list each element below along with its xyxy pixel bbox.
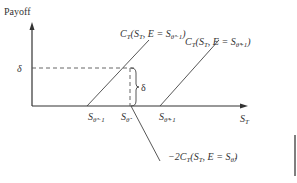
strike-label-upper: Sθ̂+1 — [159, 111, 176, 124]
y-axis-label: Payoff — [4, 6, 31, 17]
long-call-upper-strike-line — [160, 40, 219, 106]
short-calls-middle-strike-label: −2CT(ST, E = Sθ̂) — [168, 151, 238, 164]
butterfly-spread-payoff-diagram: Payoff ST δ δ CT(ST, E = Sθ̂−1) CT(ST, E… — [0, 0, 297, 183]
x-axis-label: ST — [240, 113, 250, 126]
long-call-upper-strike-label: CT(ST, E = Sθ̂+1) — [185, 36, 251, 49]
long-call-lower-strike-line — [87, 40, 149, 106]
short-calls-middle-strike-line — [131, 106, 160, 161]
x-axis — [32, 104, 248, 109]
delta-axis-label: δ — [17, 63, 22, 74]
x-axis-arrow-icon — [240, 104, 248, 109]
strike-label-lower: Sθ̂−1 — [88, 111, 105, 124]
strike-label-middle: Sθ̂ — [121, 111, 132, 124]
y-axis — [30, 22, 35, 106]
delta-brace — [131, 68, 139, 106]
long-call-lower-strike-label: CT(ST, E = Sθ̂−1) — [120, 28, 186, 41]
brace-delta-label: δ — [141, 82, 146, 93]
y-axis-arrow-icon — [30, 22, 35, 30]
